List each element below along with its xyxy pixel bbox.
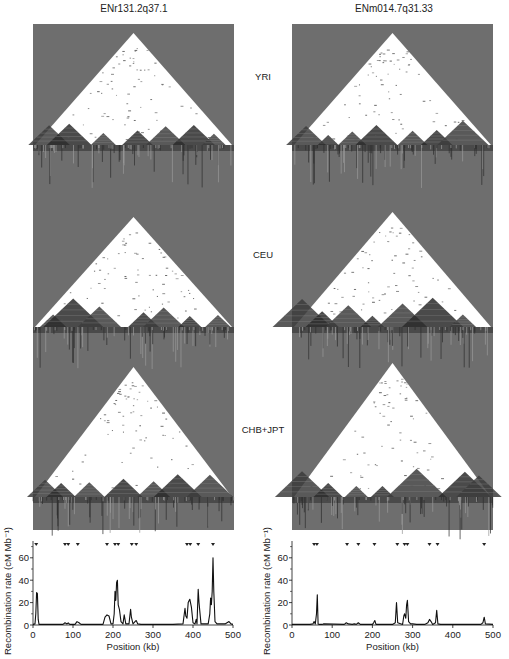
hotspot-marker-icon: [196, 543, 200, 546]
y-tick-label: 60: [18, 552, 29, 563]
hotspot-marker-icon: [113, 543, 117, 546]
hotspot-marker-icon: [356, 543, 360, 546]
x-tick-label: 400: [185, 629, 201, 640]
hotspot-marker-icon: [372, 543, 376, 546]
genotype-strip: [292, 497, 493, 503]
hotspot-marker-icon: [315, 543, 319, 546]
x-tick-label: 200: [105, 629, 121, 640]
x-tick-label: 500: [225, 629, 241, 640]
y-tick-label: 60: [277, 552, 288, 563]
y-tick-label: 20: [277, 597, 288, 608]
hotspot-marker-icon: [395, 543, 399, 546]
figure-canvas: 02040600100200300400500Position (kb)Reco…: [0, 0, 509, 659]
y-axis-label: Recombination rate (cM Mb⁻¹): [261, 527, 272, 655]
y-tick-label: 0: [24, 620, 29, 631]
hotspot-marker-icon: [405, 543, 409, 546]
x-tick-label: 0: [289, 629, 294, 640]
x-tick-label: 200: [364, 629, 380, 640]
x-tick-label: 100: [65, 629, 81, 640]
x-axis-label: Position (kb): [107, 641, 160, 652]
x-tick-label: 100: [324, 629, 340, 640]
hotspot-marker-icon: [436, 543, 440, 546]
hotspot-marker-icon: [130, 543, 134, 546]
y-axis-label: Recombination rate (cM Mb⁻¹): [2, 527, 13, 655]
hotspot-marker-icon: [211, 543, 215, 546]
x-tick-label: 300: [145, 629, 161, 640]
x-tick-label: 400: [445, 629, 461, 640]
y-tick-label: 20: [18, 597, 29, 608]
x-tick-label: 500: [485, 629, 501, 640]
y-tick-label: 40: [277, 575, 288, 586]
hotspot-marker-icon: [134, 543, 138, 546]
hotspot-marker-icon: [116, 543, 120, 546]
hotspot-marker-icon: [66, 543, 70, 546]
hotspot-marker-icon: [427, 543, 431, 546]
hotspot-marker-icon: [105, 543, 109, 546]
hotspot-marker-icon: [188, 543, 192, 546]
recombination-rate-line: [292, 595, 493, 625]
hotspot-marker-icon: [76, 543, 80, 546]
y-tick-label: 0: [283, 620, 288, 631]
y-tick-label: 40: [18, 575, 29, 586]
hotspot-marker-icon: [345, 543, 349, 546]
hotspot-marker-icon: [185, 543, 189, 546]
x-axis-label: Position (kb): [366, 641, 419, 652]
ld-triangle: [35, 367, 232, 497]
hotspot-marker-icon: [63, 543, 67, 546]
x-tick-label: 0: [30, 629, 35, 640]
x-tick-label: 300: [405, 629, 421, 640]
recombination-rate-line: [33, 558, 233, 625]
hotspot-marker-icon: [34, 543, 38, 546]
hotspot-marker-icon: [482, 543, 486, 546]
